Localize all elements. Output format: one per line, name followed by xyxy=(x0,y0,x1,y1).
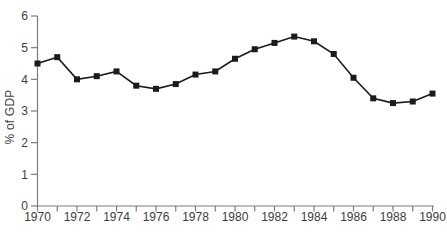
data-point-1985 xyxy=(331,51,337,57)
data-point-1982 xyxy=(272,40,278,46)
x-tick-label-1970: 1970 xyxy=(24,210,51,224)
data-point-1974 xyxy=(114,68,120,74)
y-tick-label-4: 4 xyxy=(21,73,28,87)
data-point-1983 xyxy=(291,34,297,40)
data-point-1980 xyxy=(232,56,238,62)
x-tick-label-1974: 1974 xyxy=(103,210,130,224)
data-line xyxy=(38,37,433,104)
data-point-1976 xyxy=(153,86,159,92)
data-point-1970 xyxy=(35,61,41,67)
y-tick-label-3: 3 xyxy=(21,104,28,118)
y-tick-label-5: 5 xyxy=(21,41,28,55)
data-point-1977 xyxy=(173,81,179,87)
data-point-1986 xyxy=(351,75,357,81)
x-tick-label-1972: 1972 xyxy=(64,210,91,224)
x-tick-label-1990: 1990 xyxy=(419,210,446,224)
data-point-1971 xyxy=(54,54,60,60)
data-point-1972 xyxy=(74,76,80,82)
y-tick-label-6: 6 xyxy=(21,9,28,23)
data-point-1987 xyxy=(370,95,376,101)
data-point-1989 xyxy=(410,99,416,105)
x-tick-label-1980: 1980 xyxy=(222,210,249,224)
x-tick-label-1982: 1982 xyxy=(261,210,288,224)
x-tick-label-1978: 1978 xyxy=(182,210,209,224)
x-tick-label-1976: 1976 xyxy=(143,210,170,224)
data-point-1973 xyxy=(94,73,100,79)
y-tick-label-2: 2 xyxy=(21,136,28,150)
chart-figure: 0123456197019721974197619781980198219841… xyxy=(0,0,447,232)
data-point-1979 xyxy=(212,68,218,74)
data-point-1978 xyxy=(193,72,199,78)
data-point-1975 xyxy=(133,83,139,89)
data-point-1990 xyxy=(430,91,436,97)
data-point-1984 xyxy=(311,38,317,44)
y-axis-title: % of GDP xyxy=(3,90,17,145)
data-point-1988 xyxy=(390,100,396,106)
data-point-1981 xyxy=(252,46,258,52)
x-tick-label-1988: 1988 xyxy=(380,210,407,224)
y-tick-label-1: 1 xyxy=(21,168,28,182)
gdp-share-line-chart: 0123456197019721974197619781980198219841… xyxy=(0,0,447,232)
x-tick-label-1984: 1984 xyxy=(301,210,328,224)
x-tick-label-1986: 1986 xyxy=(340,210,367,224)
